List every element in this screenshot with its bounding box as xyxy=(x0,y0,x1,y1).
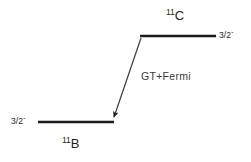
transition-type-label: GT+Fermi xyxy=(141,71,191,82)
nuclear-level-diagram: 11C 3/2- GT+Fermi 3/2- 11B xyxy=(0,0,251,162)
upper-level-mass-number: 11 xyxy=(166,7,175,17)
upper-level-spin-value: 3/2 xyxy=(219,30,231,40)
upper-level-parity-sign: - xyxy=(231,28,233,35)
upper-level-nuclide-label: 11C xyxy=(166,8,184,22)
upper-level-element-symbol: C xyxy=(175,8,185,23)
decay-transition-arrow xyxy=(114,38,141,117)
lower-level-nuclide-label: 11B xyxy=(62,136,80,150)
lower-level-element-symbol: B xyxy=(71,136,80,151)
upper-level-spin-parity-label: 3/2- xyxy=(219,29,233,39)
lower-level-mass-number: 11 xyxy=(62,135,71,145)
lower-level-parity-sign: - xyxy=(23,114,25,121)
lower-level-spin-value: 3/2 xyxy=(11,116,23,126)
level-diagram-canvas xyxy=(0,0,251,162)
lower-level-spin-parity-label: 3/2- xyxy=(11,115,25,125)
